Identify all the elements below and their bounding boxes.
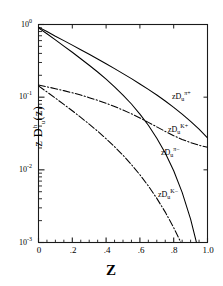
ytick-label-2: 10-2 xyxy=(6,163,32,174)
curve-zD_u^pi+ xyxy=(39,27,208,138)
curve-label-pi-plus: zDuπ+ xyxy=(172,90,191,102)
xtick-label-0: 0 xyxy=(26,245,52,255)
x-axis-title: Z xyxy=(0,262,223,279)
xtick-label-2: .4 xyxy=(94,245,120,255)
curve-label-pi-minus: zDuπ− xyxy=(161,146,180,158)
ytick-label-1: 10-1 xyxy=(6,90,32,101)
figure-container: 100 10-1 10-2 10-3 0 .2 .4 .6 .8 1.0 z D… xyxy=(0,0,223,286)
y-axis-title: z Dhu(z) xyxy=(31,81,47,171)
xtick-label-3: .6 xyxy=(128,245,154,255)
xtick-label-5: 1.0 xyxy=(195,245,221,255)
curve-label-k-plus: zDuK+ xyxy=(168,123,188,135)
xtick-label-4: .8 xyxy=(161,245,187,255)
data-curves xyxy=(39,27,208,261)
curve-label-k-minus: zDuK− xyxy=(158,188,178,200)
ytick-label-0: 100 xyxy=(6,18,32,29)
xtick-label-1: .2 xyxy=(60,245,86,255)
curve-zD_u^pi- xyxy=(39,28,200,253)
